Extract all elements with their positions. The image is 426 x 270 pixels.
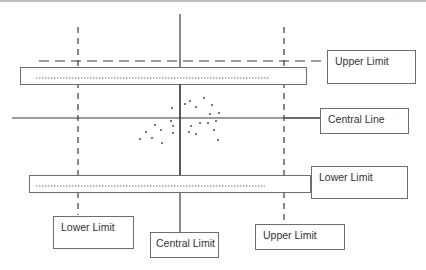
- scatter-point: [172, 125, 174, 127]
- upper-limit-label-bottom: Upper Limit: [255, 224, 345, 250]
- scatter-point: [151, 137, 153, 139]
- scatter-point: [203, 97, 205, 99]
- upper-band-box: [21, 68, 307, 85]
- scatter-point: [184, 103, 186, 105]
- scatter-point: [195, 133, 197, 135]
- scatter-point: [170, 120, 172, 122]
- central-limit-label-bottom: Central Limit: [150, 232, 219, 258]
- lower-band-box: [30, 176, 311, 193]
- scatter-point: [209, 113, 211, 115]
- central-line-label: Central Line: [320, 108, 409, 134]
- scatter-point: [145, 131, 147, 133]
- scatter-point: [199, 122, 201, 124]
- scatter-point: [172, 132, 174, 134]
- scatter-point: [217, 139, 219, 141]
- scatter-point: [215, 120, 217, 122]
- scatter-point: [211, 104, 213, 106]
- scatter-point: [160, 129, 162, 131]
- scatter-point: [154, 124, 156, 126]
- lower-limit-label-right: Lower Limit: [311, 166, 408, 199]
- scatter-point: [139, 138, 141, 140]
- scatter-point: [171, 107, 173, 109]
- scatter-point: [213, 129, 215, 131]
- scatter-point: [218, 112, 220, 114]
- upper-limit-label-right: Upper Limit: [327, 50, 416, 84]
- scatter-point: [195, 106, 197, 108]
- lower-limit-label-bottom: Lower Limit: [53, 216, 134, 249]
- scatter-point: [161, 142, 163, 144]
- scatter-point: [188, 131, 190, 133]
- scatter-point: [207, 122, 209, 124]
- scatter-point: [189, 100, 191, 102]
- scatter-point: [190, 125, 192, 127]
